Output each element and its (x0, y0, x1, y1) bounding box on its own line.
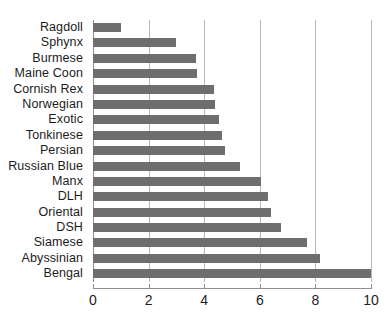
bar-row (93, 189, 371, 204)
bar-row (93, 35, 371, 50)
plot-area (93, 20, 371, 282)
bar (93, 177, 261, 186)
bar (93, 238, 307, 247)
category-axis-labels: RagdollSphynxBurmeseMaine CoonCornish Re… (0, 20, 88, 282)
category-label: Sphynx (0, 35, 88, 50)
x-tick-label: 4 (200, 292, 208, 308)
category-label: Burmese (0, 51, 88, 66)
category-label: Bengal (0, 266, 88, 281)
x-tick (315, 284, 316, 289)
x-tick (260, 284, 261, 289)
bar (93, 54, 196, 63)
x-tick (149, 284, 150, 289)
x-tick (371, 284, 372, 289)
bar-chart: RagdollSphynxBurmeseMaine CoonCornish Re… (0, 0, 389, 322)
bar-row (93, 143, 371, 158)
category-label: Oriental (0, 205, 88, 220)
bar (93, 69, 197, 78)
bar (93, 162, 240, 171)
bar (93, 85, 214, 94)
bar-row (93, 174, 371, 189)
x-tick (204, 284, 205, 289)
x-tick-label: 6 (256, 292, 264, 308)
bar-series (93, 20, 371, 282)
x-tick (93, 284, 94, 289)
category-label: Cornish Rex (0, 82, 88, 97)
category-label: DLH (0, 189, 88, 204)
x-axis-tick-labels: 0246810 (93, 292, 372, 314)
bar (93, 115, 219, 124)
x-axis-ticks (93, 284, 372, 289)
category-label: Persian (0, 143, 88, 158)
category-label: Maine Coon (0, 66, 88, 81)
bar (93, 254, 320, 263)
category-label: Norwegian (0, 97, 88, 112)
bar (93, 208, 271, 217)
bar-row (93, 20, 371, 35)
bar (93, 269, 371, 278)
x-tick-label: 2 (145, 292, 153, 308)
bar (93, 23, 121, 32)
bar-row (93, 235, 371, 250)
bar (93, 38, 176, 47)
bar-row (93, 251, 371, 266)
bar-row (93, 205, 371, 220)
bar (93, 146, 225, 155)
bar-row (93, 266, 371, 281)
bar-row (93, 220, 371, 235)
bar-row (93, 66, 371, 81)
gridline (371, 20, 372, 282)
category-label: DSH (0, 220, 88, 235)
x-tick-label: 0 (89, 292, 97, 308)
bar-row (93, 159, 371, 174)
category-label: Russian Blue (0, 159, 88, 174)
bar-row (93, 128, 371, 143)
category-label: Ragdoll (0, 20, 88, 35)
category-label: Abyssinian (0, 251, 88, 266)
bar-row (93, 82, 371, 97)
bar (93, 223, 281, 232)
bar (93, 131, 222, 140)
bar-row (93, 112, 371, 127)
bar-row (93, 51, 371, 66)
bar (93, 100, 215, 109)
category-label: Tonkinese (0, 128, 88, 143)
category-label: Exotic (0, 112, 88, 127)
x-tick-label: 10 (363, 292, 379, 308)
x-tick-label: 8 (311, 292, 319, 308)
bar-row (93, 97, 371, 112)
category-label: Manx (0, 174, 88, 189)
category-label: Siamese (0, 235, 88, 250)
bar (93, 192, 268, 201)
